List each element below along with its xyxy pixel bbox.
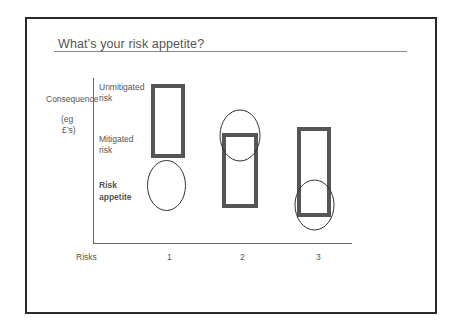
y-axis-unit-line1: (eg bbox=[61, 114, 73, 125]
risk-appetite-label-line2: appetite bbox=[99, 192, 132, 203]
y-axis-unit-line2: £’s) bbox=[62, 125, 76, 136]
x-tick-1: 1 bbox=[167, 252, 172, 263]
risk-appetite-label-line1: Risk bbox=[99, 180, 117, 191]
risk-2-bar bbox=[224, 135, 256, 206]
risk-1-appetite-ellipse bbox=[148, 161, 186, 211]
x-tick-3: 3 bbox=[316, 252, 321, 263]
risk-3-bar bbox=[299, 129, 329, 215]
x-tick-2: 2 bbox=[240, 252, 245, 263]
mitigated-risk-label-line1: Mitigated bbox=[99, 134, 134, 145]
x-axis-label: Risks bbox=[76, 252, 97, 263]
risk-1-bar bbox=[153, 86, 183, 156]
mitigated-risk-label-line2: risk bbox=[99, 145, 112, 156]
unmitigated-risk-label-line2: risk bbox=[99, 93, 112, 104]
unmitigated-risk-label-line1: Unmitigated bbox=[99, 82, 144, 93]
risk-diagram bbox=[0, 0, 459, 329]
y-axis-label: Consequence bbox=[46, 94, 98, 105]
